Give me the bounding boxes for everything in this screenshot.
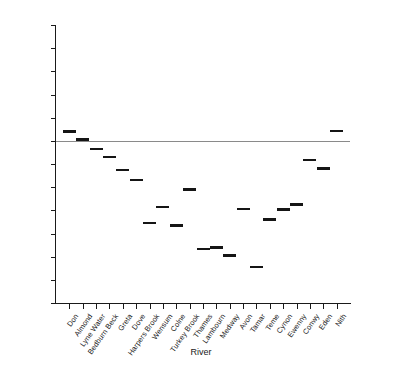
x-axis-tick <box>216 304 217 309</box>
x-axis-tick <box>337 304 338 309</box>
x-axis-tick <box>310 304 311 309</box>
x-axis-tick <box>96 304 97 309</box>
x-axis-tick <box>109 304 110 309</box>
y-axis-tick <box>51 71 56 72</box>
x-axis-tick-label: Eden <box>317 312 335 332</box>
data-point-marker <box>156 206 169 208</box>
y-axis-tick <box>51 48 56 49</box>
x-axis-tick <box>283 304 284 309</box>
x-axis-tick <box>243 304 244 309</box>
x-axis-tick <box>190 304 191 309</box>
y-axis-tick <box>51 95 56 96</box>
data-point-marker <box>63 130 76 132</box>
x-axis-tick-label: Nith <box>333 312 348 328</box>
data-point-marker <box>237 208 250 210</box>
x-axis-tick <box>176 304 177 309</box>
y-axis-tick <box>51 118 56 119</box>
y-axis-tick <box>51 234 56 235</box>
x-axis-tick <box>230 304 231 309</box>
data-point-marker <box>250 266 263 268</box>
data-point-marker <box>90 148 103 150</box>
data-point-marker <box>303 159 316 161</box>
y-axis-tick <box>51 257 56 258</box>
y-axis-tick <box>51 210 56 211</box>
x-axis-tick <box>256 304 257 309</box>
x-axis-tick <box>323 304 324 309</box>
chart-container: 50403020100-10-20-30-40-50-60-70DonAlmon… <box>0 0 402 379</box>
y-axis-tick <box>51 164 56 165</box>
data-point-marker <box>210 246 223 248</box>
data-point-marker <box>130 179 143 181</box>
x-axis-tick <box>123 304 124 309</box>
data-point-marker <box>143 222 156 224</box>
y-axis-tick <box>51 187 56 188</box>
y-axis-tick <box>51 280 56 281</box>
data-point-marker <box>317 167 330 169</box>
y-axis-tick <box>51 303 56 304</box>
plot-area: 50403020100-10-20-30-40-50-60-70DonAlmon… <box>56 25 350 303</box>
data-point-marker <box>290 203 303 205</box>
data-point-marker <box>197 248 210 250</box>
y-axis-tick <box>51 25 56 26</box>
x-axis-tick <box>150 304 151 309</box>
y-axis-tick <box>51 141 56 142</box>
data-point-marker <box>103 156 116 158</box>
data-point-marker <box>170 224 183 226</box>
data-point-marker <box>116 169 129 171</box>
x-axis-title: River <box>0 347 402 357</box>
x-axis-tick <box>163 304 164 309</box>
x-axis-tick <box>270 304 271 309</box>
data-point-marker <box>76 138 89 140</box>
data-point-marker <box>263 218 276 220</box>
data-point-marker <box>277 208 290 210</box>
zero-reference-line <box>56 141 350 142</box>
x-axis-tick <box>69 304 70 309</box>
x-axis-tick <box>136 304 137 309</box>
x-axis-tick <box>83 304 84 309</box>
x-axis-tick <box>203 304 204 309</box>
data-point-marker <box>223 254 236 256</box>
x-axis-tick <box>297 304 298 309</box>
data-point-marker <box>330 130 343 132</box>
data-point-marker <box>183 188 196 190</box>
